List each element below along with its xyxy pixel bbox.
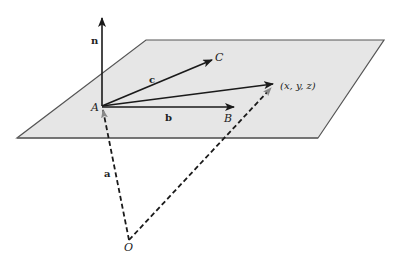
label-point-B: B [223,112,232,125]
label-a: a [104,168,111,179]
label-b: b [165,112,172,123]
label-point-A: A [90,101,99,114]
label-general-point: (x, y, z) [280,80,316,91]
label-point-C: C [215,51,224,64]
label-point-O: O [124,241,133,254]
label-c: c [149,74,155,85]
plane [17,40,384,138]
label-n: n [91,35,99,46]
plane-diagram: n c b a A C B O (x, y, z) [0,0,398,268]
